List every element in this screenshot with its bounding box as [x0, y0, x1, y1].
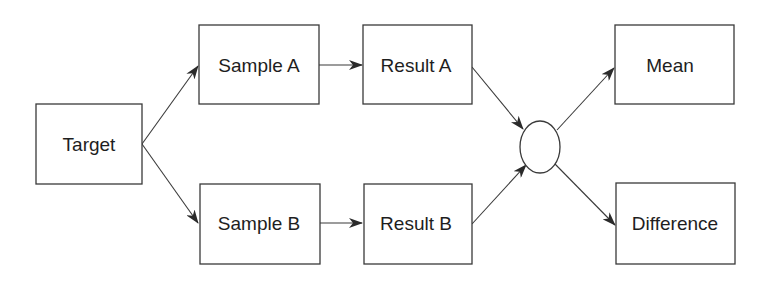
edge-target-to-sample-a [142, 66, 198, 144]
node-target-label: Target [63, 134, 117, 155]
node-sample-a: Sample A [199, 25, 319, 104]
edge-result-b-to-ellipse [472, 165, 526, 224]
node-result-b-label: Result B [380, 213, 452, 234]
flowchart-diagram: Target Sample A Sample B Result A Result… [0, 0, 765, 283]
edge-ellipse-to-mean [557, 68, 614, 130]
node-mean-label: Mean [646, 55, 694, 76]
edge-target-to-sample-b [142, 144, 198, 223]
node-target: Target [36, 104, 142, 184]
node-result-b: Result B [364, 184, 472, 264]
node-sample-a-label: Sample A [218, 55, 300, 76]
node-result-a: Result A [363, 25, 472, 104]
node-result-a-label: Result A [381, 55, 452, 76]
node-combine-ellipse [520, 121, 560, 173]
edge-result-a-to-ellipse [472, 67, 523, 129]
node-difference-label: Difference [632, 213, 718, 234]
node-sample-b: Sample B [200, 184, 320, 264]
node-sample-b-label: Sample B [218, 213, 300, 234]
edge-ellipse-to-difference [555, 164, 615, 225]
node-mean: Mean [615, 25, 734, 104]
node-difference: Difference [616, 183, 735, 264]
